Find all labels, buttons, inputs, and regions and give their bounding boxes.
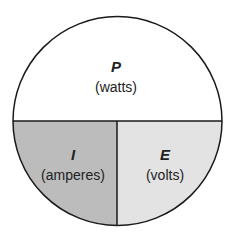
- voltage-unit: (volts): [146, 167, 184, 183]
- current-unit: (amperes): [41, 167, 105, 183]
- power-unit: (watts): [95, 79, 137, 95]
- power-symbol: P: [111, 58, 122, 75]
- voltage-symbol: E: [160, 146, 171, 163]
- power-circle-diagram: P (watts) I (amperes) E (volts): [0, 0, 227, 243]
